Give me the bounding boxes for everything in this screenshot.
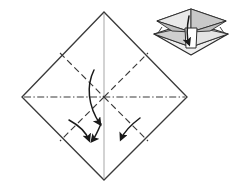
origami-step-figure: [0, 0, 236, 194]
diagram-canvas: [0, 0, 236, 194]
result-preview-3d: [154, 9, 228, 55]
